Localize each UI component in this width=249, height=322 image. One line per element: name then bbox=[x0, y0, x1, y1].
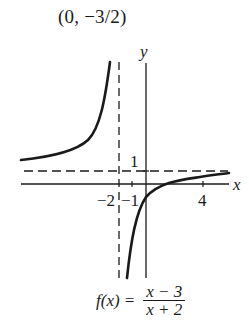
x-axis-label: x bbox=[233, 176, 241, 193]
tick-label-x-4: 4 bbox=[198, 192, 207, 209]
curve-right-branch bbox=[127, 173, 229, 278]
formula-denominator: x + 2 bbox=[143, 301, 185, 319]
tick-label-x-neg2: −2 bbox=[97, 192, 115, 209]
function-graph bbox=[0, 0, 249, 322]
y-axis-label: y bbox=[140, 43, 148, 60]
formula-lhs: f(x) = bbox=[96, 291, 135, 311]
tick-label-y-1: 1 bbox=[130, 153, 139, 170]
curve-left-branch bbox=[21, 62, 110, 160]
formula-fraction: x − 3 x + 2 bbox=[143, 283, 185, 319]
formula-numerator: x − 3 bbox=[143, 283, 185, 301]
function-formula: f(x) = x − 3 x + 2 bbox=[96, 283, 185, 319]
tick-label-x-neg1: −1 bbox=[121, 192, 139, 209]
